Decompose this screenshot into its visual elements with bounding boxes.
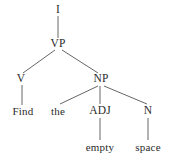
tree-edge-vp-to-np xyxy=(62,50,98,73)
tree-edge-np-to-n xyxy=(104,86,147,104)
tree-edges-layer xyxy=(0,0,172,161)
tree-node-np: NP xyxy=(93,73,108,85)
tree-node-find: Find xyxy=(13,106,34,117)
tree-edge-np-to-the xyxy=(60,86,98,104)
syntax-tree-figure: IVPVNPFindtheADJNemptyspace xyxy=(0,0,172,161)
tree-node-empty: empty xyxy=(86,142,115,153)
tree-edge-vp-to-v xyxy=(23,50,55,73)
tree-node-the: the xyxy=(51,106,65,117)
tree-node-vp: VP xyxy=(50,38,65,50)
tree-node-adj: ADJ xyxy=(89,105,111,117)
tree-node-space: space xyxy=(135,142,160,153)
tree-node-n: N xyxy=(144,105,153,117)
tree-node-i: I xyxy=(56,4,60,16)
tree-node-v: V xyxy=(17,73,26,85)
